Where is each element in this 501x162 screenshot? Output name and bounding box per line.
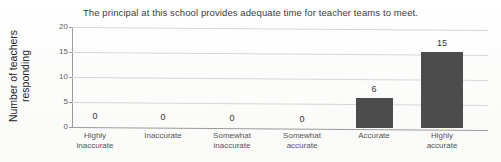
y-axis-label: Number of teachers responding <box>2 22 36 130</box>
x-label-line-2: inaccurate <box>213 141 251 151</box>
y-tick-label-0: 0 <box>46 123 68 131</box>
x-label-line-1: Highly <box>431 131 453 140</box>
x-label-line-2: inaccurate <box>77 141 114 151</box>
y-axis-label-line-2: responding <box>19 30 31 122</box>
x-label-line-1: Accurate <box>358 131 390 140</box>
x-label-line-2: accurate <box>283 141 321 151</box>
bar-highly-accurate <box>421 52 463 128</box>
x-label-inaccurate: Inaccurate <box>144 131 181 141</box>
x-label-highly-accurate: Highly accurate <box>427 131 458 151</box>
y-tick-label-20: 20 <box>46 23 68 31</box>
plot-area: 0 0 0 0 6 15 <box>72 27 488 128</box>
value-label-somewhat-inaccurate: 0 <box>229 113 234 123</box>
x-label-line-2: accurate <box>427 141 458 151</box>
x-label-somewhat-accurate: Somewhat accurate <box>283 131 321 151</box>
value-label-highly-inaccurate: 0 <box>92 111 97 121</box>
chart-title: The principal at this school provides ad… <box>0 7 501 18</box>
y-axis-tick-labels: 20 15 10 5 0 <box>46 27 68 128</box>
x-label-highly-inaccurate: Highly inaccurate <box>77 131 114 151</box>
y-axis-label-line-1: Number of teachers <box>7 30 19 122</box>
value-label-somewhat-accurate: 0 <box>299 114 304 124</box>
value-label-accurate: 6 <box>371 84 376 94</box>
bar-accurate <box>356 98 393 128</box>
value-label-inaccurate: 0 <box>160 112 165 122</box>
y-tick-label-10: 10 <box>46 73 68 81</box>
x-label-line-1: Somewhat <box>283 131 321 140</box>
y-tick-label-15: 15 <box>46 48 68 56</box>
value-label-highly-accurate: 15 <box>437 38 447 48</box>
y-tick-label-5: 5 <box>46 98 68 106</box>
x-label-accurate: Accurate <box>358 131 390 141</box>
bar-chart: The principal at this school provides ad… <box>0 0 501 162</box>
gridline-20 <box>72 27 488 31</box>
x-label-line-1: Inaccurate <box>144 131 181 140</box>
x-label-somewhat-inaccurate: Somewhat inaccurate <box>213 131 251 151</box>
x-label-line-1: Highly <box>84 131 106 140</box>
x-label-line-1: Somewhat <box>213 131 251 140</box>
x-axis-labels: Highly inaccurate Inaccurate Somewhat in… <box>72 131 488 159</box>
